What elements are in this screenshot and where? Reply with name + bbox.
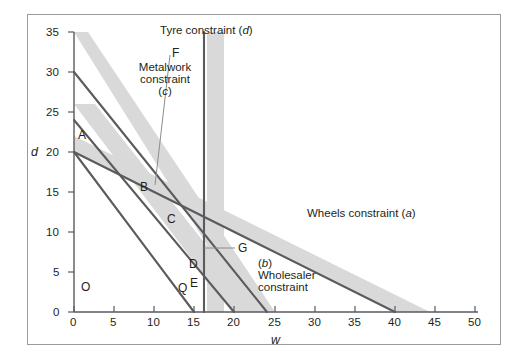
caption-wholesaler-line1: (b) bbox=[258, 257, 346, 269]
chart-plot bbox=[0, 0, 525, 360]
y-axis-label: d bbox=[31, 145, 38, 159]
x-tick-45: 45 bbox=[428, 316, 441, 328]
caption-tyre-close: ) bbox=[249, 24, 253, 36]
point-label-Q: Q bbox=[178, 281, 187, 295]
caption-metalwork-line2: constraint bbox=[117, 73, 213, 85]
band-wholesaler bbox=[74, 104, 259, 312]
caption-tyre-text: Tyre constraint ( bbox=[160, 24, 242, 36]
x-tick-5: 5 bbox=[110, 316, 116, 328]
point-label-E: E bbox=[190, 276, 198, 290]
x-axis-label: w bbox=[271, 333, 280, 347]
caption-wholesaler-paren-close: ) bbox=[268, 257, 272, 269]
y-tick-5: 5 bbox=[53, 266, 59, 278]
x-tick-35: 35 bbox=[348, 316, 361, 328]
y-tick-20: 20 bbox=[46, 146, 59, 158]
x-tick-0: 0 bbox=[70, 316, 76, 328]
point-label-D: D bbox=[189, 257, 198, 271]
caption-wheels-close: ) bbox=[412, 207, 416, 219]
x-tick-20: 20 bbox=[227, 316, 240, 328]
y-tick-35: 35 bbox=[46, 26, 59, 38]
x-tick-40: 40 bbox=[388, 316, 401, 328]
caption-wheels-constraint: Wheels constraint (a) bbox=[307, 207, 416, 219]
point-label-O: O bbox=[81, 280, 90, 294]
caption-metalwork-line1: Metalwork bbox=[117, 61, 213, 73]
point-label-A: A bbox=[78, 128, 86, 142]
caption-metalwork-line3: (c) bbox=[117, 85, 213, 97]
caption-wheels-text: Wheels constraint ( bbox=[307, 207, 405, 219]
y-tick-10: 10 bbox=[46, 226, 59, 238]
y-tick-15: 15 bbox=[46, 186, 59, 198]
y-ticks bbox=[68, 32, 74, 312]
x-tick-10: 10 bbox=[147, 316, 160, 328]
caption-wholesaler-constraint: (b) Wholesaler constraint bbox=[258, 257, 346, 293]
caption-tyre-constraint: Tyre constraint (d) bbox=[160, 24, 253, 36]
x-tick-30: 30 bbox=[308, 316, 321, 328]
caption-metalwork-constraint: Metalwork constraint (c) bbox=[117, 61, 213, 97]
caption-metalwork-paren-close: ) bbox=[168, 85, 172, 97]
figure-container: 0 5 10 15 20 25 30 35 40 45 50 0 5 10 15… bbox=[0, 0, 525, 360]
x-tick-15: 15 bbox=[187, 316, 200, 328]
point-label-C: C bbox=[167, 212, 176, 226]
y-tick-25: 25 bbox=[46, 106, 59, 118]
point-label-F: F bbox=[172, 46, 179, 60]
point-label-G: G bbox=[238, 241, 247, 255]
x-tick-50: 50 bbox=[468, 316, 481, 328]
caption-wholesaler-line2: Wholesaler bbox=[258, 269, 346, 281]
caption-wholesaler-line3: constraint bbox=[258, 281, 346, 293]
point-label-B: B bbox=[140, 180, 148, 194]
y-tick-0: 0 bbox=[53, 306, 59, 318]
y-tick-30: 30 bbox=[46, 66, 59, 78]
x-tick-25: 25 bbox=[268, 316, 281, 328]
